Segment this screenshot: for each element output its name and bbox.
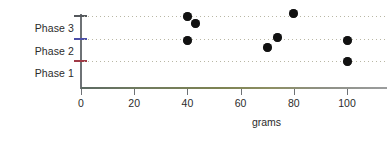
gridline-top <box>84 16 387 17</box>
data-point <box>191 19 200 28</box>
gridline-middle <box>84 39 387 40</box>
x-axis-tick <box>187 89 188 95</box>
x-axis-tick <box>241 89 242 95</box>
data-point <box>343 36 352 45</box>
data-point <box>343 57 352 66</box>
scatter-chart: Phase 3 Phase 2 Phase 1 020406080100 gra… <box>0 0 389 141</box>
x-axis-tick <box>347 89 348 95</box>
x-axis-title-text: grams <box>252 116 281 128</box>
x-axis-spine <box>81 87 387 89</box>
x-axis-tick-label: 0 <box>61 97 101 109</box>
x-axis-tick <box>81 89 82 95</box>
gridline-lower <box>84 61 387 62</box>
x-axis-tick-label: 20 <box>114 97 154 109</box>
x-axis-title: grams <box>0 116 389 128</box>
data-point <box>263 43 272 52</box>
y-tick-label-phase-2: Phase 2 <box>8 45 74 57</box>
x-axis-tick-label: 100 <box>327 97 367 109</box>
x-axis-tick-label: 80 <box>274 97 314 109</box>
data-point <box>183 12 192 21</box>
data-point <box>273 33 282 42</box>
x-axis-tick <box>294 89 295 95</box>
data-point <box>183 36 192 45</box>
x-axis-tick <box>134 89 135 95</box>
y-tick-label-phase-1: Phase 1 <box>8 67 74 79</box>
x-axis-tick-label: 40 <box>167 97 207 109</box>
y-tick-label-phase-3: Phase 3 <box>8 22 74 34</box>
x-axis-tick-label: 60 <box>221 97 261 109</box>
y-axis-spine <box>80 14 82 89</box>
